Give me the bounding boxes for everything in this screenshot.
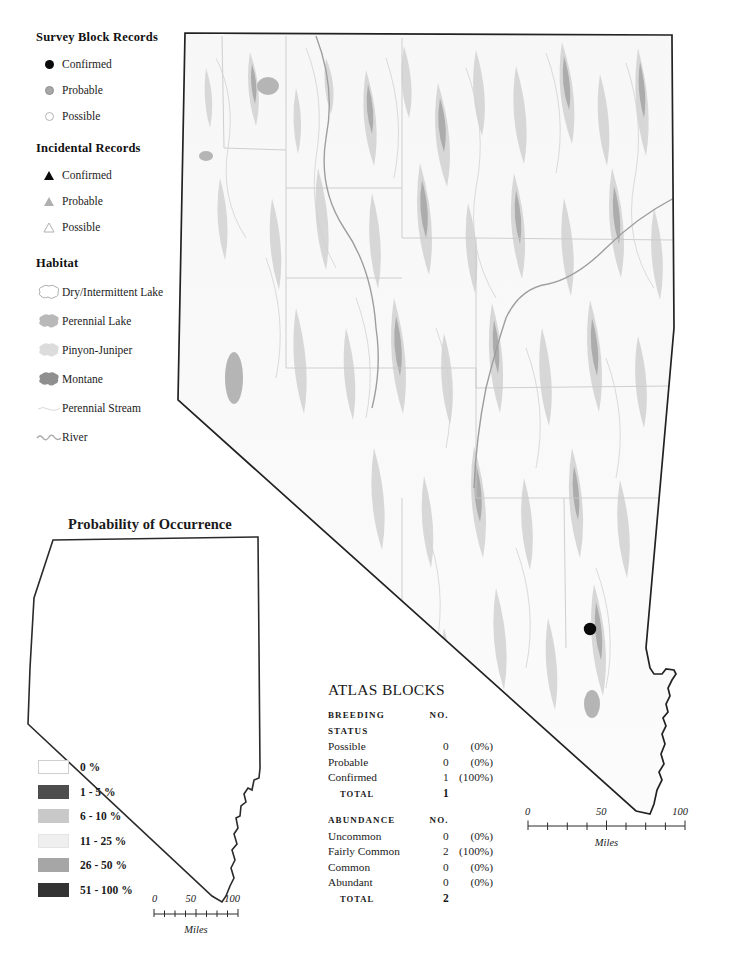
scale-bar-small: 0 50 100 Miles	[152, 893, 240, 935]
legend-item-incidental-probable: Probable	[36, 188, 186, 214]
legend-label: Pinyon-Juniper	[62, 344, 132, 356]
legend-item-incidental-possible: Possible	[36, 214, 186, 240]
atlas-blocks-title: ATLAS BLOCKS	[328, 681, 493, 699]
cell-label: Abundant	[328, 875, 422, 891]
color-swatch	[38, 760, 69, 774]
table-row: Probable 0 (0%)	[328, 755, 493, 771]
cell-total-count: 2	[422, 891, 449, 908]
scale-tick: 50	[186, 893, 197, 904]
cell-count: 2	[422, 844, 449, 860]
cell-percent: (0%)	[449, 755, 493, 771]
atlas-blocks-panel: ATLAS BLOCKS BREEDING STATUS NO. Possibl…	[328, 681, 493, 907]
cell-count: 0	[422, 739, 449, 755]
legend-label: Probable	[62, 195, 103, 207]
map-legend: Survey Block Records Confirmed Probable …	[36, 30, 186, 451]
scale-tick: 100	[672, 806, 688, 817]
swatch-label: 1 - 5 %	[80, 786, 115, 798]
open-circle-icon	[36, 112, 62, 121]
column-header-status: BREEDING STATUS	[328, 705, 422, 739]
table-row: Possible 0 (0%)	[328, 739, 493, 755]
cell-percent: (0%)	[449, 860, 493, 876]
color-swatch	[38, 883, 69, 897]
legend-heading-habitat: Habitat	[36, 256, 186, 271]
table-row: Uncommon 0 (0%)	[328, 829, 493, 845]
filled-triangle-icon	[36, 171, 62, 180]
gray-triangle-icon	[36, 197, 62, 206]
table-row: Fairly Common 2 (100%)	[328, 844, 493, 860]
legend-item-montane: Montane	[36, 364, 186, 393]
cell-label: Possible	[328, 739, 422, 755]
legend-item-survey-confirmed: Confirmed	[36, 51, 186, 77]
scale-tick: 0	[525, 806, 530, 817]
legend-heading-survey-block: Survey Block Records	[36, 30, 186, 45]
cell-label: Uncommon	[328, 829, 422, 845]
legend-label: Possible	[62, 221, 100, 233]
legend-item-incidental-confirmed: Confirmed	[36, 162, 186, 188]
legend-heading-incidental: Incidental Records	[36, 141, 186, 156]
column-header-no: NO.	[422, 705, 449, 739]
swatch-row: 51 - 100 %	[38, 878, 133, 903]
probability-legend-swatches: 0 % 1 - 5 % 6 - 10 % 11 - 25 % 26 - 50 %…	[38, 755, 133, 902]
legend-item-dry-lake: Dry/Intermittent Lake	[36, 277, 186, 306]
swatch-row: 11 - 25 %	[38, 829, 133, 854]
legend-label: Confirmed	[62, 169, 112, 181]
cell-count: 0	[422, 860, 449, 876]
legend-item-survey-probable: Probable	[36, 77, 186, 103]
column-header-abundance: ABUNDANCE	[328, 810, 422, 829]
color-swatch	[38, 785, 69, 799]
survey-block-confirmed-marker[interactable]	[584, 623, 596, 635]
swatch-label: 51 - 100 %	[80, 884, 133, 896]
swatch-label: 6 - 10 %	[80, 810, 121, 822]
cell-percent: (100%)	[449, 770, 493, 786]
habitat-legend-group: Dry/Intermittent Lake Perennial Lake Pin…	[36, 277, 186, 451]
scale-unit-label: Miles	[152, 924, 240, 935]
cell-label: Probable	[328, 755, 422, 771]
cell-percent: (0%)	[449, 875, 493, 891]
table-row: Confirmed 1 (100%)	[328, 770, 493, 786]
legend-label: Montane	[62, 373, 103, 385]
scale-tick: 0	[152, 893, 157, 904]
atlas-blocks-table: BREEDING STATUS NO. Possible 0 (0%) Prob…	[328, 705, 493, 907]
table-row-total: TOTAL 2	[328, 891, 493, 908]
wavy-line-icon	[36, 432, 62, 442]
cell-label: Common	[328, 860, 422, 876]
gray-circle-icon	[36, 86, 62, 95]
swatch-row: 26 - 50 %	[38, 853, 133, 878]
scale-tick-labels: 0 50 100	[152, 893, 240, 904]
table-spacer	[328, 802, 493, 810]
cell-total-count: 1	[422, 786, 449, 803]
open-triangle-icon	[36, 222, 62, 233]
color-swatch	[38, 809, 69, 823]
swatch-label: 26 - 50 %	[80, 859, 127, 871]
scale-tick: 100	[224, 893, 240, 904]
column-header-no: NO.	[422, 810, 449, 829]
legend-item-perennial-lake: Perennial Lake	[36, 306, 186, 335]
cell-percent: (0%)	[449, 829, 493, 845]
blob-icon	[36, 341, 62, 359]
color-swatch	[38, 858, 69, 872]
cell-total-label: TOTAL	[328, 891, 422, 908]
scale-unit-label: Miles	[525, 837, 688, 848]
color-swatch	[38, 834, 69, 848]
scale-tick-labels: 0 50 100	[525, 806, 688, 817]
table-header-breeding: BREEDING STATUS NO.	[328, 705, 493, 739]
legend-item-perennial-stream: Perennial Stream	[36, 393, 186, 422]
legend-item-river: River	[36, 422, 186, 451]
legend-label: Confirmed	[62, 58, 112, 70]
cell-count: 1	[422, 770, 449, 786]
table-header-abundance: ABUNDANCE NO.	[328, 810, 493, 829]
legend-label: Probable	[62, 84, 103, 96]
cell-count: 0	[422, 755, 449, 771]
legend-item-pinyon-juniper: Pinyon-Juniper	[36, 335, 186, 364]
filled-circle-icon	[36, 60, 62, 69]
scale-bar-large: 0 50 100 Miles	[525, 806, 688, 848]
swatch-label: 0 %	[80, 761, 100, 773]
blob-outline-icon	[36, 283, 62, 301]
legend-label: River	[62, 431, 88, 443]
cell-percent: (0%)	[449, 739, 493, 755]
cell-label: Confirmed	[328, 770, 422, 786]
cell-count: 0	[422, 829, 449, 845]
blob-icon	[36, 312, 62, 330]
table-row: Abundant 0 (0%)	[328, 875, 493, 891]
cell-total-label: TOTAL	[328, 786, 422, 803]
